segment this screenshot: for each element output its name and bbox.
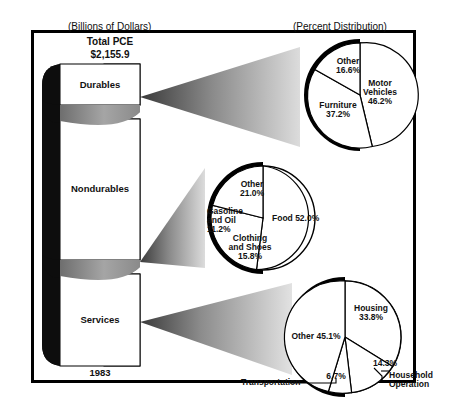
bar-label-services: Services xyxy=(80,315,119,325)
pie3-household-line2: Operation xyxy=(389,380,429,389)
pie3-transportation-value: 6.7% xyxy=(326,372,345,381)
pie3-housing-value: 33.8% xyxy=(359,313,383,322)
axis-title-left: (Billions of Dollars) xyxy=(68,22,151,33)
pie3-transportation-label: Transportation xyxy=(241,378,301,387)
pie2-other-value: 21.0% xyxy=(240,189,264,198)
pie2-food-label: Food 52.0% xyxy=(272,214,319,223)
pie2-gasoline-value: 11.2% xyxy=(207,225,231,234)
pce-infographic: (Billions of Dollars) (Percent Distribut… xyxy=(0,0,451,413)
total-pce-label: Total PCE xyxy=(87,37,133,48)
year-label: 1983 xyxy=(89,368,110,378)
pie2-clothing-value: 15.8% xyxy=(238,252,262,261)
axis-title-right: (Percent Distribution) xyxy=(293,22,387,33)
bar-label-nondurables: Nondurables xyxy=(71,184,129,194)
total-pce-value: $2,155.9 xyxy=(91,50,130,61)
pie1-motor-vehicles-value: 46.2% xyxy=(368,97,392,106)
pie1-other-value: 16.6% xyxy=(336,66,360,75)
pie3-household-value: 14.3% xyxy=(373,359,397,368)
pie1-furniture-value: 37.2% xyxy=(326,110,350,119)
bar-label-durables: Durables xyxy=(80,80,121,90)
pie3-other-label: Other 45.1% xyxy=(291,332,340,341)
